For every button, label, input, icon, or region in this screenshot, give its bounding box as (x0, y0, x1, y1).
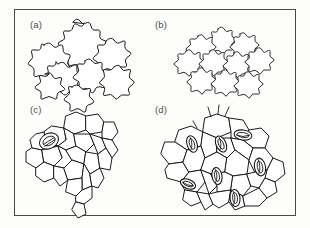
sinuous-cell-group-b (174, 27, 274, 98)
cell-outline (102, 122, 118, 140)
trichome (225, 107, 229, 116)
panel-label-b: (b) (155, 19, 167, 30)
sinuous-cell-group-a (28, 19, 134, 112)
cell-outline (72, 202, 86, 218)
panel-b (155, 9, 296, 104)
figure-root: (a) (b) (c) (d) (0, 0, 310, 228)
panel-b-drawing (155, 9, 296, 104)
panel-d-drawing (155, 104, 296, 216)
panel-c-drawing (14, 104, 155, 216)
trichome (218, 105, 219, 114)
polygonal-cell-group-c (26, 112, 118, 218)
cell-outline (245, 48, 274, 74)
cell-outline (100, 65, 135, 99)
cell-outline (234, 72, 263, 98)
cell-outline (86, 114, 104, 134)
cell-outline (209, 190, 231, 208)
panel-label-d: (d) (155, 104, 167, 115)
trichome (208, 107, 211, 117)
panel-label-a: (a) (30, 19, 42, 30)
cell-outline (187, 68, 216, 94)
polygonal-cell-group-d (161, 114, 285, 210)
cell-outline (211, 70, 240, 96)
panel-label-c: (c) (30, 104, 42, 115)
panel-c (14, 104, 155, 216)
panel-d (155, 104, 296, 216)
